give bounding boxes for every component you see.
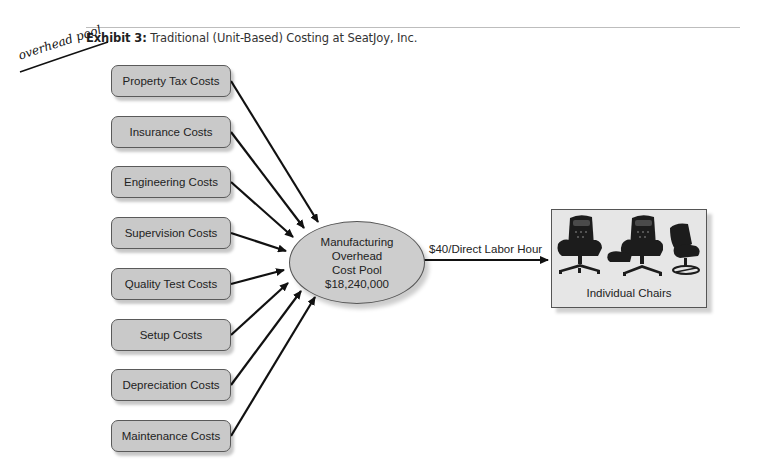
executive-chair-icon — [558, 215, 603, 274]
pool-line-2: Overhead — [332, 249, 383, 263]
overhead-cost-pool: Manufacturing Overhead Cost Pool $18,240… — [289, 221, 425, 304]
pool-amount: $18,240,000 — [325, 277, 389, 291]
swivel-lounge-chair-icon — [670, 224, 700, 275]
cost-box-property-tax: Property Tax Costs — [111, 65, 231, 97]
arrow-setup — [231, 283, 288, 335]
pool-line-3: Cost Pool — [332, 263, 382, 277]
cost-box-label: Insurance Costs — [129, 126, 212, 138]
cost-box-quality-test: Quality Test Costs — [111, 268, 231, 300]
cost-box-setup: Setup Costs — [111, 319, 231, 351]
cost-box-label: Supervision Costs — [125, 227, 218, 239]
cost-box-depreciation: Depreciation Costs — [111, 369, 231, 401]
arrow-property-tax — [231, 81, 318, 222]
cost-box-supervision: Supervision Costs — [111, 217, 231, 249]
cost-box-label: Quality Test Costs — [125, 278, 217, 290]
chairs-illustration — [552, 210, 706, 286]
arrow-supervision — [231, 233, 286, 251]
cost-box-label: Maintenance Costs — [122, 430, 220, 442]
products-box: Individual Chairs — [551, 209, 707, 308]
products-label: Individual Chairs — [552, 287, 706, 299]
cost-box-label: Engineering Costs — [124, 176, 218, 188]
cost-box-label: Setup Costs — [140, 329, 203, 341]
cost-box-maintenance: Maintenance Costs — [111, 420, 231, 452]
arrow-engineering — [231, 182, 293, 237]
pool-line-1: Manufacturing — [321, 235, 394, 249]
cost-box-insurance: Insurance Costs — [111, 116, 231, 148]
cost-box-label: Depreciation Costs — [122, 379, 219, 391]
allocation-rate-label: $40/Direct Labor Hour — [429, 243, 542, 255]
arrow-quality-test — [231, 270, 284, 284]
cost-box-label: Property Tax Costs — [123, 75, 220, 87]
executive-chair-ottoman-icon — [607, 215, 663, 276]
cost-box-engineering: Engineering Costs — [111, 166, 231, 198]
